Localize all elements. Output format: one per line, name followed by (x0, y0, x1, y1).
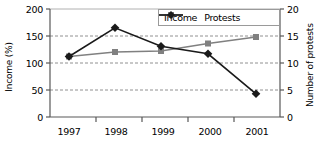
series-protests-line (65, 24, 261, 99)
chart-container: Income (%) Number of protests 200 150 10… (0, 0, 325, 147)
data-point-income-2001 (253, 34, 259, 40)
legend-swatch-protests-icon (159, 10, 183, 20)
data-point-income-1998 (112, 49, 118, 55)
data-point-protests-1999 (157, 42, 166, 51)
legend-item-protests: Protests (204, 12, 240, 23)
data-point-income-2000 (205, 41, 211, 47)
chart-legend: Income Protests (158, 9, 280, 26)
grid-lines (50, 36, 280, 90)
data-point-protests-1997 (65, 52, 74, 61)
data-point-protests-1998 (111, 24, 120, 33)
legend-label-protests: Protests (204, 12, 240, 23)
